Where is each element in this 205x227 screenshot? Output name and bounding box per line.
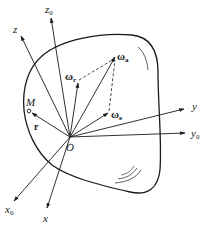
label-y: y [191, 100, 197, 112]
rotation-diagram: z0 z y y0 x0 x O M r ωa ωr ωe [0, 0, 205, 227]
vector-omega-a [70, 57, 115, 137]
label-omega-r: ωr [65, 70, 76, 84]
label-x0: x0 [4, 203, 14, 217]
axis-x0 [14, 137, 70, 201]
vector-omega-e [70, 113, 108, 137]
vector-omega-r [70, 83, 78, 137]
label-z0: z0 [44, 3, 53, 17]
label-z: z [12, 23, 18, 35]
dashed-edge-r-to-a [79, 59, 114, 80]
label-y0: y0 [190, 127, 200, 141]
point-M [27, 109, 31, 113]
label-x: x [42, 212, 48, 224]
label-origin: O [66, 141, 74, 153]
shading-arc-top [138, 47, 148, 70]
label-omega-a: ωa [117, 50, 129, 64]
label-omega-e: ωe [111, 108, 122, 122]
dashed-edge-e-to-a [109, 60, 115, 111]
axis-y0 [70, 133, 185, 137]
label-r: r [34, 121, 39, 132]
axis-y [70, 109, 184, 137]
label-M: M [25, 96, 36, 108]
rigid-body-outline [24, 34, 161, 193]
